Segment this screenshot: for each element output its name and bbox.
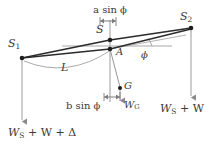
point-marker-s xyxy=(108,38,113,43)
point-marker-a xyxy=(108,47,113,52)
hull-upper-member xyxy=(22,28,191,58)
label-point-s: S xyxy=(96,24,104,35)
point-marker-g xyxy=(118,86,122,90)
label-weight-left: WS + W + Δ xyxy=(8,127,76,139)
label-weight-g: WG xyxy=(124,100,140,111)
label-point-a: A xyxy=(116,47,123,57)
label-point-g: G xyxy=(124,81,132,91)
diagram-canvas: a sin ϕ S1 S S2 A G L ϕ b sin ϕ WG WS + … xyxy=(0,0,219,147)
top-dimension-tick-right xyxy=(112,19,116,24)
label-arc-length: L xyxy=(61,62,68,73)
label-bottom-dimension: b sin ϕ xyxy=(66,101,100,111)
label-top-dimension: a sin ϕ xyxy=(93,5,127,15)
label-point-s2: S2 xyxy=(180,11,192,23)
label-point-s1: S1 xyxy=(8,38,20,50)
label-weight-right: WS + W xyxy=(160,103,204,115)
label-angle-phi: ϕ xyxy=(141,50,148,60)
point-marker-s2 xyxy=(189,26,194,31)
bottom-dimension-tick-right xyxy=(116,95,120,100)
point-marker-s1 xyxy=(20,56,25,61)
bottom-dimension-tick-left xyxy=(104,95,108,100)
